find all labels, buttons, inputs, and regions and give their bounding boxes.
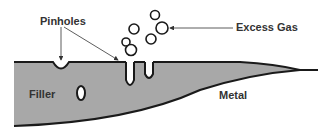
excess-gas-label: Excess Gas xyxy=(236,21,298,33)
gas-bubbles xyxy=(122,11,168,56)
pinhole xyxy=(126,62,134,85)
filler-region xyxy=(14,62,300,126)
internal-void xyxy=(77,86,85,100)
metal-label: Metal xyxy=(219,89,247,101)
filler-label: Filler xyxy=(29,88,55,100)
pinholes-label: Pinholes xyxy=(40,15,86,27)
pinhole-arrow-right xyxy=(64,27,118,60)
pinhole xyxy=(145,62,153,78)
